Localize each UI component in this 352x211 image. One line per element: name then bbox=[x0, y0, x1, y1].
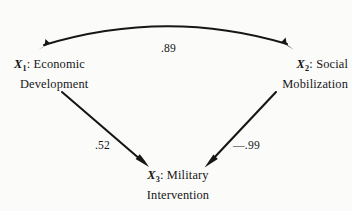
variable-symbol-x1: X1 bbox=[14, 57, 27, 71]
node-x3-separator: : bbox=[160, 168, 164, 182]
node-x2-separator: : bbox=[309, 57, 313, 71]
node-x1-separator: : bbox=[27, 57, 31, 71]
node-label-x1: X1: Economic Development bbox=[14, 57, 88, 92]
node-x2-text2: Mobilization bbox=[264, 77, 348, 93]
coefficient-label-correlation: .89 bbox=[161, 42, 176, 55]
node-x1-text2: Development bbox=[14, 77, 88, 93]
node-x1-text1: Economic bbox=[34, 57, 85, 71]
variable-symbol-x2: X2 bbox=[297, 57, 310, 71]
node-label-x2: X2: Social Mobilization bbox=[264, 57, 348, 92]
node-x3-text2: Intervention bbox=[129, 188, 227, 204]
node-x2-text1: Social bbox=[316, 57, 348, 71]
path-arrow-x2-x3 bbox=[205, 92, 276, 168]
path-diagram: X1: Economic Development X2: Social Mobi… bbox=[0, 0, 352, 211]
node-x3-line1: X3: Military bbox=[129, 168, 227, 188]
variable-symbol-x3: X3 bbox=[147, 168, 160, 182]
node-x2-line1: X2: Social bbox=[264, 57, 348, 77]
node-x3-text1: Military bbox=[167, 168, 209, 182]
path-arrow-x1-x3 bbox=[62, 92, 149, 167]
node-label-x3: X3: Military Intervention bbox=[129, 168, 227, 203]
node-x1-line1: X1: Economic bbox=[14, 57, 88, 77]
coefficient-label-x1-x3: .52 bbox=[95, 139, 110, 152]
coefficient-label-x2-x3: —.99 bbox=[233, 139, 260, 152]
